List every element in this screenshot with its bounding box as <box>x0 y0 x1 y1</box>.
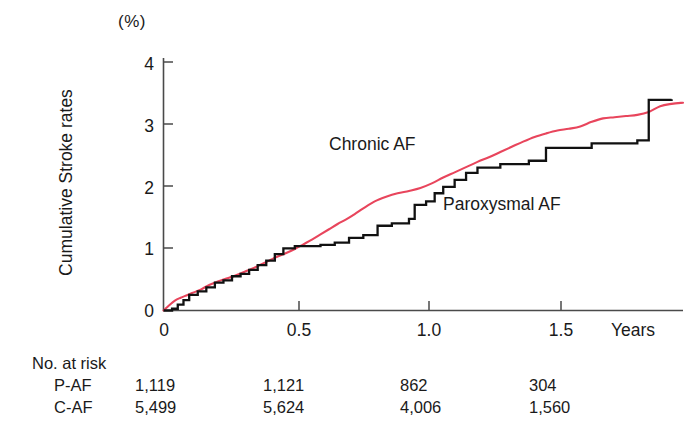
kaplan-meier-figure: (%) Cumulative Stroke rates 0 1 2 3 4 0 … <box>0 0 698 430</box>
at-risk-c-af-t0: 5,499 <box>135 396 176 418</box>
at-risk-p-af-t05: 1,121 <box>263 374 304 396</box>
at-risk-p-af-t0: 1,119 <box>135 374 175 396</box>
table-row: P-AF 1,119 1,121 862 304 <box>32 374 106 396</box>
series-line-chronic-af <box>164 103 684 311</box>
y-axis-ticks <box>164 62 174 248</box>
table-row: C-AF 5,499 5,624 4,006 1,560 <box>32 396 106 418</box>
at-risk-title: No. at risk <box>32 352 106 374</box>
x-axis-ticks <box>299 301 561 311</box>
at-risk-p-af-t15: 304 <box>529 374 557 396</box>
cut-off-caption <box>22 422 677 429</box>
at-risk-row-label-p-af: P-AF <box>54 374 92 396</box>
at-risk-p-af-t10: 862 <box>400 374 428 396</box>
series-line-paroxysmal-af <box>164 99 672 310</box>
at-risk-c-af-t05: 5,624 <box>263 396 304 418</box>
at-risk-c-af-t10: 4,006 <box>400 396 441 418</box>
at-risk-row-label-c-af: C-AF <box>54 396 93 418</box>
at-risk-c-af-t15: 1,560 <box>529 396 570 418</box>
at-risk-table: No. at risk P-AF 1,119 1,121 862 304 C-A… <box>32 352 106 418</box>
